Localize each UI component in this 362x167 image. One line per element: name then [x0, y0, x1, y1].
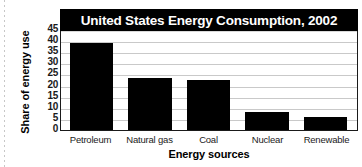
bar-slot	[62, 31, 121, 130]
bar	[128, 78, 171, 130]
bar-slot	[179, 31, 238, 130]
bar	[245, 112, 288, 130]
y-axis-tick-labels: 454035302520151050	[36, 29, 58, 133]
left-edge-dotted-rule	[4, 0, 5, 167]
bar	[304, 117, 347, 130]
chart-figure: Share of energy use 454035302520151050 U…	[0, 0, 362, 167]
y-axis-tick-label: 5	[53, 113, 58, 123]
x-axis-category-label: Renewable	[297, 133, 356, 147]
bar-slot	[296, 31, 355, 130]
y-axis-tick-label: 10	[47, 102, 58, 112]
y-axis-tick-label: 45	[47, 24, 58, 34]
y-axis-tick-label: 25	[47, 68, 58, 78]
y-axis-tick-label: 20	[47, 80, 58, 90]
y-axis-tick-label: 35	[47, 46, 58, 56]
bar-series	[61, 31, 357, 130]
y-axis-tick-label: 0	[53, 124, 58, 134]
chart-title: United States Energy Consumption, 2002	[60, 9, 358, 31]
x-axis-category-label: Natural gas	[120, 133, 179, 147]
x-axis-title: Energy sources	[60, 148, 358, 160]
bar	[70, 43, 113, 130]
x-axis-category-label: Petroleum	[61, 133, 120, 147]
bar-slot	[121, 31, 180, 130]
x-axis-category-labels: PetroleumNatural gasCoalNuclearRenewable	[60, 133, 358, 147]
y-axis-tick-label: 30	[47, 57, 58, 67]
x-axis-category-label: Coal	[179, 133, 238, 147]
y-axis-title: Share of energy use	[18, 30, 32, 134]
bar	[187, 80, 230, 130]
plot-area	[60, 31, 358, 131]
bar-slot	[238, 31, 297, 130]
x-axis-category-label: Nuclear	[238, 133, 297, 147]
y-axis-tick-label: 40	[47, 35, 58, 45]
y-axis-tick-label: 15	[47, 91, 58, 101]
